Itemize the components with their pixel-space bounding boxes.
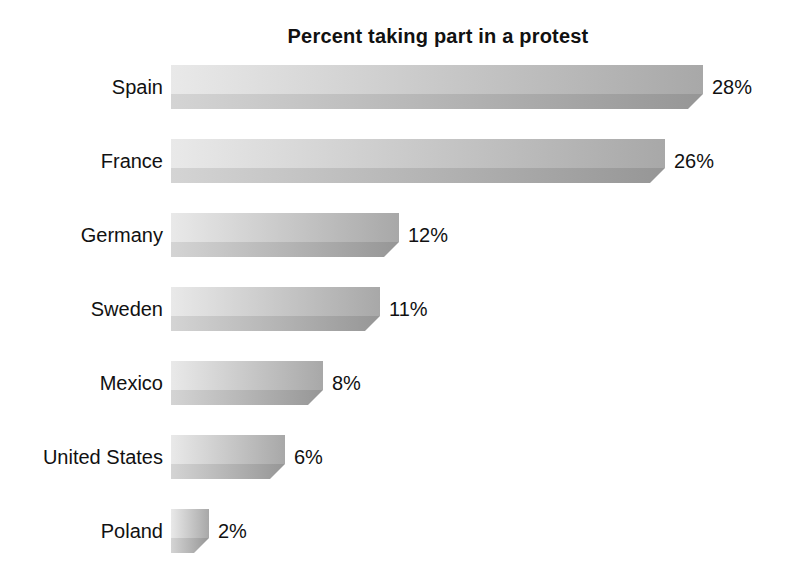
bar-top-face [171,361,323,390]
bar-row: Spain28% [0,65,792,109]
value-label: 8% [332,361,361,405]
category-label: France [0,139,163,183]
bar-top-face [171,435,285,464]
bar [171,287,380,331]
bar-bottom-face [171,94,703,109]
value-label: 6% [294,435,323,479]
bar [171,139,665,183]
bar [171,509,209,553]
value-label: 28% [712,65,752,109]
bar-bottom-face [171,464,285,479]
bar-bottom-face [171,168,665,183]
value-label: 2% [218,509,247,553]
bar-chart-canvas: Percent taking part in a protest Spain28… [0,0,792,570]
value-label: 26% [674,139,714,183]
bar-top-face [171,509,209,538]
bar [171,65,703,109]
bar-row: Poland2% [0,509,792,553]
bar-row: Germany12% [0,213,792,257]
bar-row: United States6% [0,435,792,479]
bar-bottom-face [171,390,323,405]
bar-top-face [171,65,703,94]
bar-top-face [171,287,380,316]
chart-title: Percent taking part in a protest [288,25,589,48]
bar-bottom-face [171,316,380,331]
category-label: Spain [0,65,163,109]
bar-row: Sweden11% [0,287,792,331]
bar-bottom-face [171,242,399,257]
bar [171,435,285,479]
bar [171,213,399,257]
bar-top-face [171,139,665,168]
category-label: Germany [0,213,163,257]
value-label: 12% [408,213,448,257]
category-label: Poland [0,509,163,553]
bar-row: Mexico8% [0,361,792,405]
value-label: 11% [389,287,428,331]
category-label: United States [0,435,163,479]
category-label: Mexico [0,361,163,405]
bar-row: France26% [0,139,792,183]
category-label: Sweden [0,287,163,331]
bar-bottom-face [171,538,209,553]
bar-top-face [171,213,399,242]
bar [171,361,323,405]
